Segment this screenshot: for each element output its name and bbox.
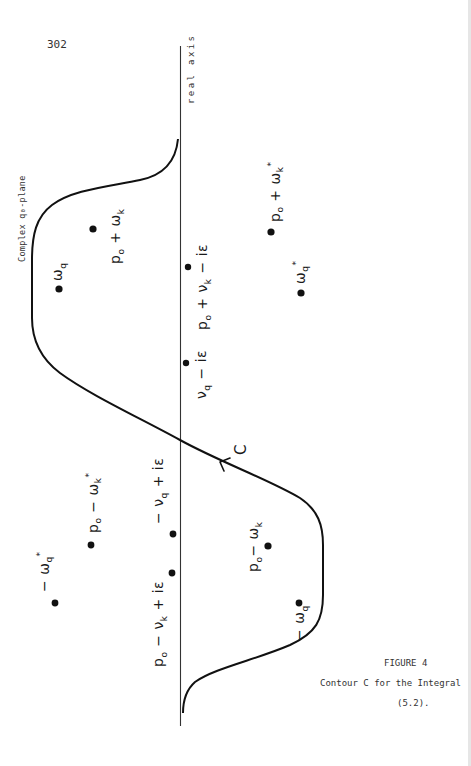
point-omega-q <box>55 285 62 292</box>
figure-caption-line1: Contour C for the Integral <box>320 678 461 688</box>
point-p0-minus-nu-k-plus-ie <box>169 570 176 577</box>
point-p0-plus-omega-k <box>89 225 96 232</box>
label-p0-minus-omega-k-star: po − ωk* <box>84 473 103 533</box>
label-p0-minus-omega-k: po− ωk <box>245 521 264 572</box>
point-p0-minus-omega-k-star <box>88 542 95 549</box>
contour-label: C <box>232 444 250 455</box>
label-minus-omega-q: − ωq <box>291 605 310 641</box>
point-minus-omega-q-star <box>52 600 59 607</box>
point-p0-plus-omega-k-star <box>267 228 274 235</box>
point-minus-nu-q-plus-ie <box>170 531 177 538</box>
contour-curve <box>32 139 323 713</box>
pole-points <box>52 225 305 606</box>
label-omega-q-star: ωq* <box>291 261 310 284</box>
complex-plane-label: Complex q₀-plane <box>17 175 27 262</box>
point-p0-plus-nu-k-minus-ie <box>185 264 191 270</box>
label-omega-q: ωq <box>49 263 68 281</box>
point-p0-minus-omega-k <box>264 542 271 549</box>
label-p0-plus-nu-k-minus-ie: po + νk − iε <box>194 244 213 330</box>
figure-title: FIGURE 4 <box>384 658 427 668</box>
contour-diagram <box>0 0 471 766</box>
label-nu-q-minus-ie: νq − iε <box>193 350 212 399</box>
label-minus-omega-q-star: − ωq* <box>35 551 54 592</box>
figure-caption-line2: (5.2). <box>397 698 430 708</box>
label-p0-plus-omega-k: po + ωk <box>107 209 126 264</box>
point-omega-q-star <box>297 289 304 296</box>
point-nu-q-minus-ie <box>183 360 189 366</box>
real-axis-label: real axis <box>186 34 196 104</box>
label-p0-minus-nu-k-plus-ie: po − νk + iε <box>150 581 169 667</box>
label-p0-plus-omega-k-star: po + ωk* <box>266 162 285 222</box>
label-minus-nu-q-plus-ie: − νq + iε <box>150 458 169 524</box>
